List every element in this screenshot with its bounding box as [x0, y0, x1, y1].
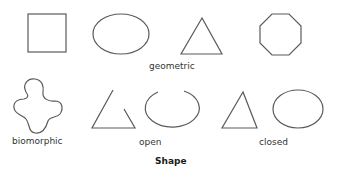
- biomorphic-blob-shape: [14, 79, 62, 133]
- ellipse-shape: [93, 14, 149, 54]
- square-shape: [28, 14, 66, 52]
- open-label: open: [139, 138, 161, 147]
- geometric-label: geometric: [149, 62, 195, 71]
- open-ellipse-shape: [145, 91, 199, 127]
- open-triangle-shape: [92, 90, 135, 128]
- biomorphic-label: biomorphic: [12, 137, 63, 146]
- diagram-title: Shape: [155, 157, 187, 166]
- triangle-shape: [181, 18, 222, 54]
- shape-diagram: [0, 0, 337, 173]
- closed-label: closed: [259, 138, 288, 147]
- closed-triangle-shape: [222, 92, 257, 128]
- octagon-shape: [260, 14, 301, 55]
- closed-ellipse-shape: [273, 90, 323, 128]
